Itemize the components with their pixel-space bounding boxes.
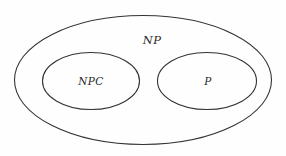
set-label-npc-text: NPC — [78, 75, 104, 87]
set-label-npc: NPC — [78, 75, 104, 87]
set-label-p: P — [204, 75, 211, 87]
set-label-np: NP — [143, 33, 162, 47]
set-label-np-text: NP — [143, 33, 162, 47]
set-label-p-text: P — [204, 75, 211, 87]
venn-diagram-svg — [0, 0, 286, 156]
euler-diagram-canvas: NP NPC P — [0, 0, 286, 156]
